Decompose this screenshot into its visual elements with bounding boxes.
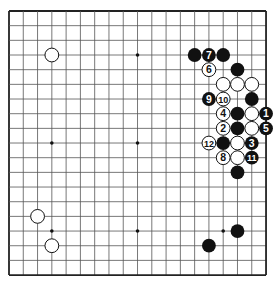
move-number: 10 <box>218 95 228 105</box>
black-stone <box>231 165 245 179</box>
move-number: 1 <box>263 107 269 119</box>
star-point <box>221 229 225 233</box>
white-stone <box>245 77 259 91</box>
black-stone <box>245 92 259 106</box>
black-stone: 1 <box>259 107 273 121</box>
white-stone-icon <box>45 48 59 62</box>
white-stone-icon <box>231 136 245 150</box>
white-stone-icon <box>45 239 59 253</box>
move-number: 2 <box>220 122 226 134</box>
black-stone-icon <box>216 48 230 62</box>
white-stone <box>45 239 59 253</box>
move-number: 9 <box>206 93 212 105</box>
white-stone: 12 <box>202 136 216 150</box>
black-stone: 3 <box>245 136 259 150</box>
white-stone <box>231 77 245 91</box>
white-stone <box>45 48 59 62</box>
white-stone: 8 <box>216 151 230 165</box>
black-stone <box>216 136 230 150</box>
white-stone: 10 <box>216 92 230 106</box>
black-stone-icon <box>188 48 202 62</box>
white-stone <box>216 77 230 91</box>
go-board: 769104125123811 <box>0 0 276 285</box>
star-point <box>50 141 54 145</box>
black-stone: 5 <box>259 121 273 135</box>
black-stone <box>188 48 202 62</box>
white-stone <box>31 209 45 223</box>
white-stone-icon <box>245 121 259 135</box>
move-number: 4 <box>220 107 226 119</box>
star-point <box>136 141 140 145</box>
white-stone <box>231 151 245 165</box>
black-stone: 7 <box>202 48 216 62</box>
black-stone-icon <box>216 136 230 150</box>
white-stone: 6 <box>202 63 216 77</box>
move-number: 3 <box>249 137 255 149</box>
white-stone: 2 <box>216 121 230 135</box>
white-stone-icon <box>245 77 259 91</box>
white-stone-icon <box>231 77 245 91</box>
move-number: 8 <box>220 151 226 163</box>
black-stone-icon <box>231 224 245 238</box>
move-number: 6 <box>206 63 212 75</box>
white-stone-icon <box>216 77 230 91</box>
white-stone-icon <box>231 151 245 165</box>
black-stone-icon <box>231 165 245 179</box>
black-stone-icon <box>231 107 245 121</box>
move-number: 5 <box>263 122 269 134</box>
black-stone: 9 <box>202 92 216 106</box>
move-number: 11 <box>247 153 257 163</box>
white-stone <box>245 121 259 135</box>
move-number: 12 <box>204 139 214 149</box>
black-stone-icon <box>245 92 259 106</box>
black-stone <box>231 224 245 238</box>
white-stone: 4 <box>216 107 230 121</box>
black-stone <box>231 121 245 135</box>
white-stone-icon <box>31 209 45 223</box>
star-point <box>50 229 54 233</box>
black-stone: 11 <box>245 151 259 165</box>
black-stone <box>231 107 245 121</box>
black-stone <box>231 63 245 77</box>
white-stone-icon <box>245 107 259 121</box>
black-stone <box>202 239 216 253</box>
white-stone <box>231 136 245 150</box>
black-stone-icon <box>231 63 245 77</box>
move-number: 7 <box>206 49 212 61</box>
black-stone-icon <box>202 239 216 253</box>
black-stone <box>216 48 230 62</box>
white-stone <box>245 107 259 121</box>
star-point <box>136 229 140 233</box>
star-point <box>136 53 140 57</box>
black-stone-icon <box>231 121 245 135</box>
